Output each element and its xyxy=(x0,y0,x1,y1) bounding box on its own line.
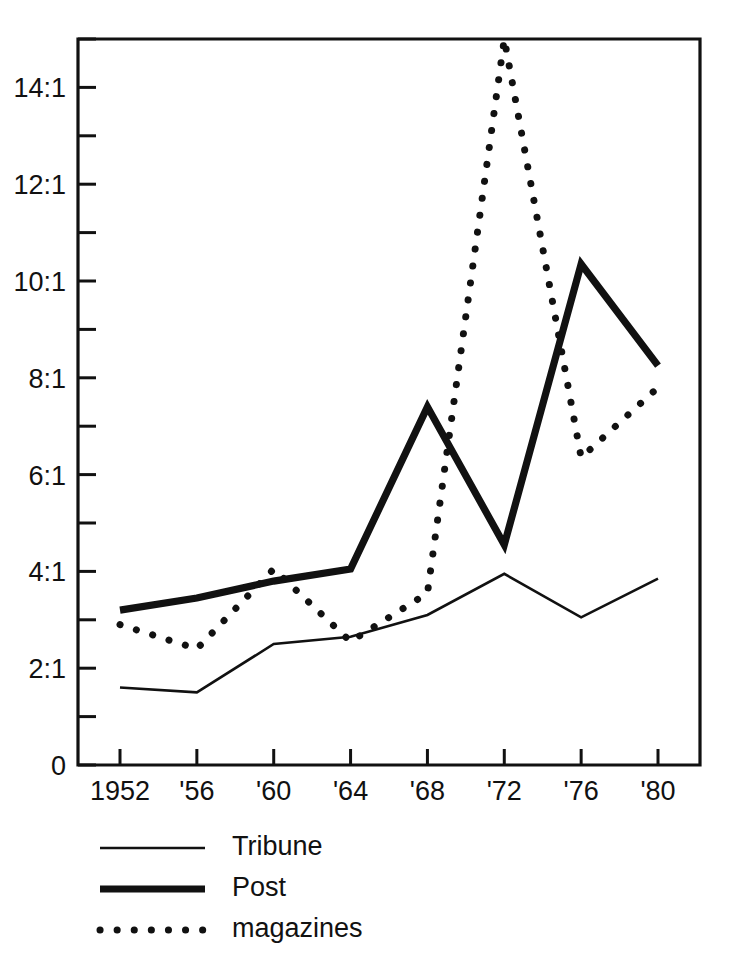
plot-frame xyxy=(78,39,700,765)
x-tick-label: '68 xyxy=(410,776,445,806)
y-tick-label: 8:1 xyxy=(28,364,66,394)
plot-border xyxy=(78,39,700,765)
chart-figure: 02:14:16:18:110:112:114:1 1952'56'60'64'… xyxy=(0,0,734,961)
legend-label-tribune: Tribune xyxy=(232,831,323,861)
series-line-tribune xyxy=(120,574,658,693)
x-axis-labels: 1952'56'60'64'68'72'76'80 xyxy=(90,776,676,806)
y-tick-label: 14:1 xyxy=(13,73,66,103)
y-tick-label: 12:1 xyxy=(13,170,66,200)
x-tick-label: '60 xyxy=(256,776,291,806)
y-tick-label: 4:1 xyxy=(28,557,66,587)
line-chart: 02:14:16:18:110:112:114:1 1952'56'60'64'… xyxy=(0,0,734,961)
x-tick-label: '56 xyxy=(179,776,214,806)
series-line-magazines xyxy=(120,39,658,649)
x-tick-label: '72 xyxy=(487,776,522,806)
y-tick-label: 6:1 xyxy=(28,461,66,491)
x-tick-label: '64 xyxy=(333,776,368,806)
x-tick-label: '80 xyxy=(640,776,675,806)
legend-label-post: Post xyxy=(232,872,287,902)
series-group xyxy=(120,39,658,692)
x-tick-label: 1952 xyxy=(90,776,150,806)
y-axis-labels: 02:14:16:18:110:112:114:1 xyxy=(13,73,66,781)
y-tick-label: 0 xyxy=(51,751,66,781)
y-tick-label: 2:1 xyxy=(28,654,66,684)
y-tick-label: 10:1 xyxy=(13,267,66,297)
y-axis-ticks xyxy=(78,39,96,765)
x-tick-label: '76 xyxy=(564,776,599,806)
legend-label-magazines: magazines xyxy=(232,913,363,943)
x-axis-ticks xyxy=(120,749,658,765)
chart-legend: TribunePostmagazines xyxy=(100,831,363,943)
